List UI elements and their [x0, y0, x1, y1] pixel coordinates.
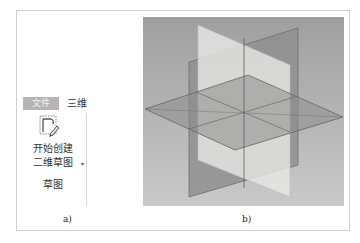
caption-a: a) [63, 214, 72, 224]
tab-3d[interactable]: 三维 [63, 97, 91, 110]
origin-planes-graphic [143, 17, 344, 206]
ribbon-tabs: 文件 三维 [22, 96, 94, 111]
caption-b: b) [242, 214, 251, 224]
start-2d-sketch-label: 开始创建 二维草图 [25, 142, 81, 170]
button-label-line1: 开始创建 [25, 142, 81, 156]
group-label-sketch: 草图 [25, 176, 81, 191]
ribbon-separator [86, 113, 87, 206]
button-label-line2: 二维草图 [25, 156, 81, 170]
origin-planes-viewport [143, 17, 344, 206]
ribbon-panel: 文件 三维 开始创建 二维草图 ▾ 草图 [22, 96, 94, 206]
tab-file[interactable]: 文件 [23, 97, 59, 110]
dropdown-arrow-icon[interactable]: ▾ [81, 160, 84, 167]
sketch-pencil-icon [39, 115, 61, 139]
